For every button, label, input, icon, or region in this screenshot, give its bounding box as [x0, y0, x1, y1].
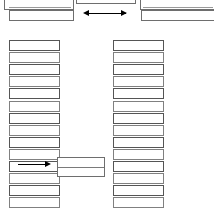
left-column-row[interactable] — [9, 125, 60, 136]
left-column-row[interactable] — [9, 149, 60, 160]
left-column-row[interactable] — [9, 64, 60, 75]
top-middle-box[interactable] — [76, 0, 136, 4]
middle-connector-divider — [58, 167, 104, 168]
right-column-row[interactable] — [113, 88, 164, 99]
right-column-row[interactable] — [113, 197, 164, 208]
right-column-row[interactable] — [113, 137, 164, 148]
left-column-row[interactable] — [9, 40, 60, 51]
top-right-box-shadow — [143, 7, 213, 8]
left-column-row[interactable] — [9, 197, 60, 208]
right-column-row[interactable] — [113, 76, 164, 87]
diagram-canvas — [0, 0, 214, 210]
left-column-row[interactable] — [9, 137, 60, 148]
right-column-row[interactable] — [113, 125, 164, 136]
right-column-row[interactable] — [113, 149, 164, 160]
left-column-row[interactable] — [9, 76, 60, 87]
right-column-row[interactable] — [113, 113, 164, 124]
bidirectional-arrow-head-left — [83, 10, 89, 16]
left-column-row[interactable] — [9, 88, 60, 99]
top-left-box[interactable] — [4, 0, 74, 10]
right-column-row[interactable] — [113, 161, 164, 172]
left-column-row[interactable] — [9, 185, 60, 196]
top-left-box-shadow — [9, 7, 71, 8]
right-column-row[interactable] — [113, 185, 164, 196]
right-column-row[interactable] — [113, 52, 164, 63]
right-arrow-head — [45, 161, 51, 167]
left-column-row[interactable] — [9, 161, 60, 172]
left-column-row[interactable] — [9, 101, 60, 112]
left-column-row[interactable] — [9, 52, 60, 63]
top-right-box-lower[interactable] — [141, 10, 214, 21]
right-column-row[interactable] — [113, 173, 164, 184]
left-column-row[interactable] — [9, 173, 60, 184]
left-column-row[interactable] — [9, 113, 60, 124]
right-column-row[interactable] — [113, 40, 164, 51]
bidirectional-arrow-head-right — [121, 10, 127, 16]
top-right-box[interactable] — [140, 0, 214, 10]
right-column-row[interactable] — [113, 101, 164, 112]
right-column-row[interactable] — [113, 64, 164, 75]
top-left-box-lower[interactable] — [9, 10, 74, 21]
